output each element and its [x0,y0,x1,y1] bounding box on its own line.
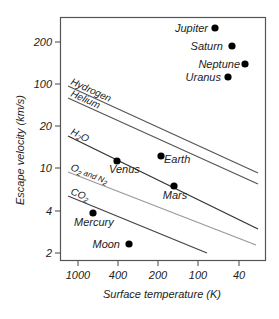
helium-line [68,98,258,184]
y-tick-4: 4 [46,205,52,217]
jupiter-point [211,24,218,31]
x-tick-1000: 1000 [66,269,91,281]
y-tick-10: 10 [40,162,53,174]
neptune-point [241,60,248,67]
uranus-label: Uranus [186,71,222,83]
uranus-point [224,73,231,80]
earth-label: Earth [164,153,190,165]
mercury-label: Mercury [74,216,115,228]
x-axis-title: Surface temperature (K) [103,288,221,300]
moon-point [125,240,132,247]
y-tick-100: 100 [34,78,53,90]
x-axis: 1000 400 200 100 40 [66,261,246,281]
x-tick-40: 40 [233,269,246,281]
y-tick-200: 200 [33,36,53,48]
y-tick-20: 20 [39,120,53,132]
escape-velocity-chart: 200 100 20 10 4 2 1000 400 200 100 40 Su… [0,0,279,319]
mars-label: Mars [163,189,188,201]
y-tick-2: 2 [45,247,52,259]
jupiter-label: Jupiter [174,22,209,34]
moon-label: Moon [92,238,120,250]
planet-points: Jupiter Saturn Neptune Uranus Earth Venu… [74,22,249,250]
saturn-label: Saturn [191,40,223,52]
venus-label: Venus [109,163,140,175]
x-tick-100: 100 [189,269,208,281]
saturn-point [228,42,235,49]
y-axis: 200 100 20 10 4 2 [33,36,60,259]
y-axis-title: Escape velocity (km/s) [14,95,26,205]
neptune-label: Neptune [198,58,240,70]
x-tick-400: 400 [109,269,128,281]
x-tick-200: 200 [148,269,168,281]
